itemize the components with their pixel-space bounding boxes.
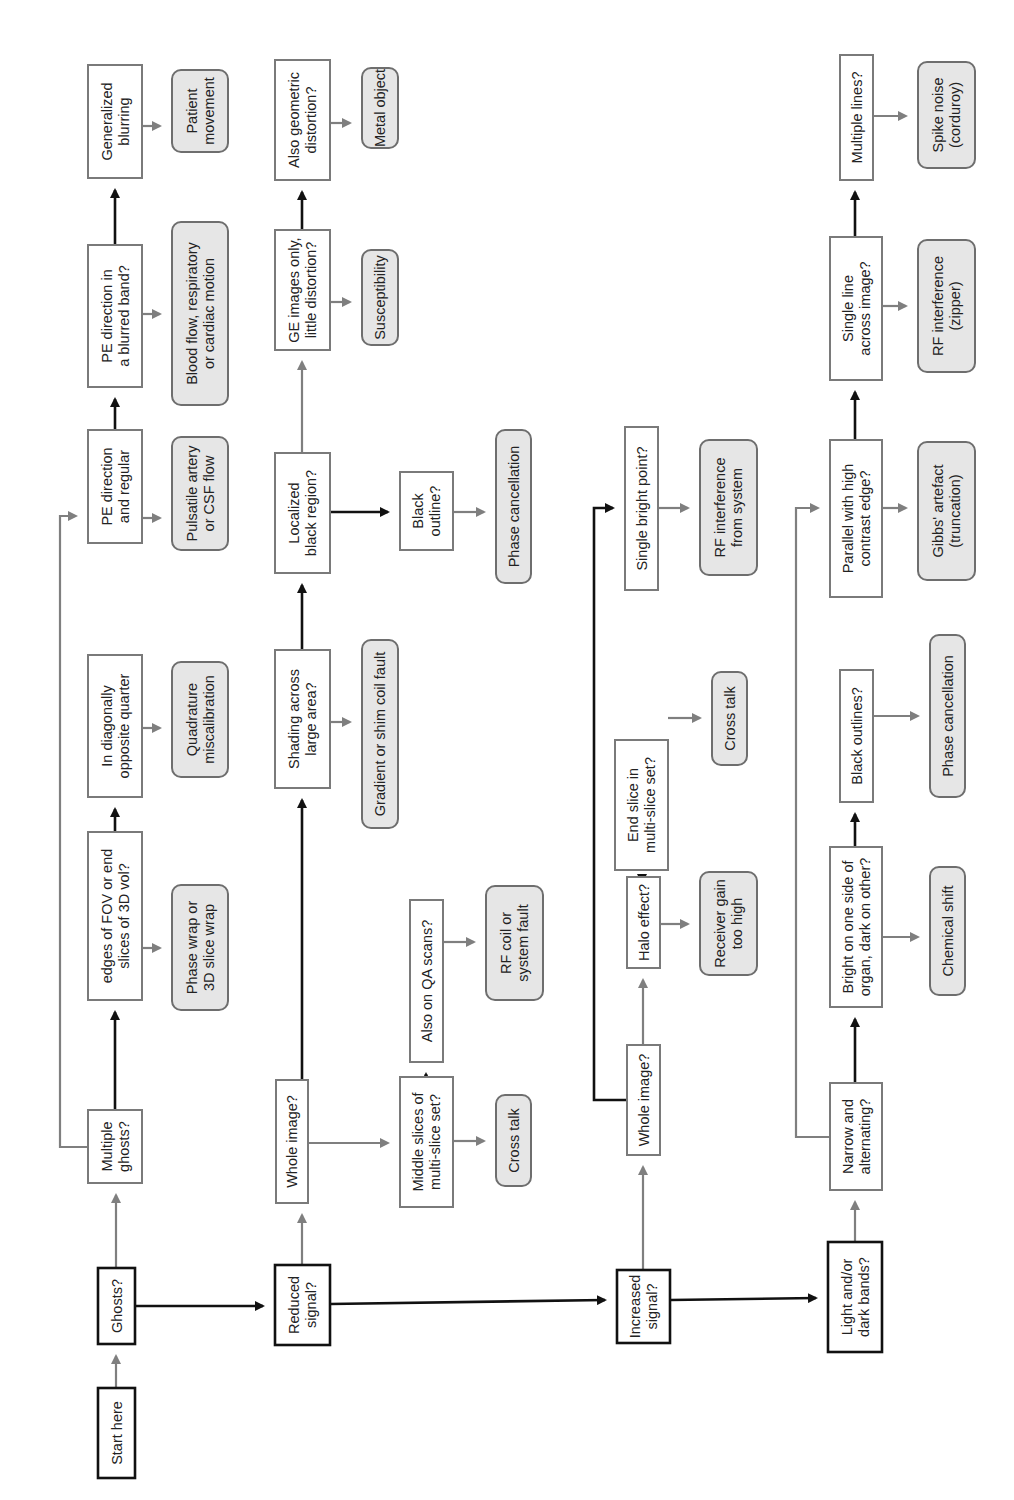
node-label: opposite quarter	[116, 673, 132, 778]
result-susceptibility: Susceptibility	[362, 250, 398, 345]
node-label: Phase cancellation	[506, 446, 522, 568]
node-label: black region?	[303, 470, 319, 556]
question-light-dark: Light and/ordark bands?	[828, 1242, 882, 1352]
question-shading: Shading acrosslarge area?	[275, 650, 330, 788]
node-label: Multiple lines?	[849, 72, 865, 164]
node-label: system fault	[515, 904, 531, 981]
result-blood-flow: Blood flow, respiratoryor cardiac motion	[172, 222, 228, 405]
node-label: PE direction in	[99, 269, 115, 363]
question-gen-blurring: Generalizedblurring	[88, 65, 142, 178]
node-label: Spike noise	[930, 78, 946, 153]
node-label: blurring	[116, 97, 132, 145]
node-label: Gibbs' artefact	[930, 464, 946, 557]
question-black-outlines: Black outlines?	[840, 670, 873, 802]
node-label: Cross talk	[722, 686, 738, 751]
result-rf-zipper: RF interference(zipper)	[918, 240, 975, 372]
node-label: Whole image?	[284, 1095, 300, 1188]
question-diag-quarter: In diagonallyopposite quarter	[88, 655, 142, 797]
question-single-line: Single lineacross image?	[830, 237, 882, 380]
node-label: signal?	[644, 1284, 660, 1330]
question-middle-slices: Middle slices ofmulti-slice set?	[400, 1077, 453, 1207]
node-label: across image?	[857, 261, 873, 355]
question-bright-point: Single bright point?	[625, 427, 658, 590]
node-label: Phase wrap or	[184, 901, 200, 995]
question-bright-one-side: Bright on one side oforgan, dark on othe…	[830, 847, 882, 1007]
question-localized-black: Localizedblack region?	[275, 453, 330, 573]
node-label: edges of FOV or end	[99, 849, 115, 984]
node-label: 3D slice wrap	[201, 904, 217, 991]
node-label: too high	[729, 898, 745, 950]
node-label: dark bands?	[856, 1257, 872, 1337]
question-multiple-lines: Multiple lines?	[840, 55, 873, 180]
result-patient-movement: Patientmovement	[172, 70, 228, 152]
node-label: (zipper)	[947, 281, 963, 330]
result-gradient-shim: Gradient or shim coil fault	[362, 640, 398, 828]
node-label: Black outlines?	[849, 687, 865, 785]
node-label: Light and/or	[839, 1259, 855, 1336]
node-label: movement	[201, 77, 217, 145]
result-receiver-gain: Receiver gaintoo high	[700, 872, 757, 975]
result-rf-system: RF interferencefrom system	[700, 440, 757, 575]
node-label: Blood flow, respiratory	[184, 241, 200, 384]
node-label: outline?	[427, 486, 443, 537]
node-label: (truncation)	[947, 474, 963, 547]
question-reduced-signal: Reducedsignal?	[275, 1265, 330, 1345]
node-label: Single line	[840, 275, 856, 342]
node-label: Metal object	[372, 69, 388, 147]
node-label: Cross talk	[506, 1108, 522, 1173]
question-halo: Halo effect?	[627, 877, 660, 968]
node-label: a blurred band?	[116, 265, 132, 367]
node-label: Reduced	[286, 1276, 302, 1334]
node-label: Ghosts?	[109, 1279, 125, 1333]
question-qa-scans: Also on QA scans?	[410, 900, 443, 1062]
question-increased-signal: Increasedsignal?	[617, 1270, 670, 1343]
question-geometric: Also geometricdistortion?	[275, 60, 330, 180]
question-ghosts: Ghosts?	[98, 1268, 135, 1344]
node-label: Also geometric	[286, 72, 302, 168]
node-label: RF interference	[712, 458, 728, 558]
result-gibbs: Gibbs' artefact(truncation)	[918, 442, 975, 580]
node-label: Narrow and	[840, 1099, 856, 1174]
node-label: RF coil or	[498, 912, 514, 974]
question-whole-image-i: Whole image?	[627, 1045, 660, 1155]
node-label: miscalibration	[201, 675, 217, 764]
node-label: Phase cancellation	[940, 655, 956, 777]
node-label: Black	[410, 493, 426, 529]
node-label: PE direction	[99, 447, 115, 525]
node-label: Increased	[627, 1275, 643, 1339]
result-pulsatile: Pulsatile arteryor CSF flow	[172, 437, 228, 550]
node-label: distortion?	[303, 87, 319, 154]
question-multiple-ghosts: Multipleghosts?	[88, 1110, 142, 1183]
node-label: (corduroy)	[947, 82, 963, 148]
node-label: RF interference	[930, 256, 946, 356]
result-phase-wrap: Phase wrap or3D slice wrap	[172, 885, 228, 1010]
node-label: Halo effect?	[636, 884, 652, 961]
node-label: Gradient or shim coil fault	[372, 652, 388, 816]
result-metal-object: Metal object	[362, 68, 398, 148]
node-label: or CSF flow	[201, 455, 217, 531]
node-label: Also on QA scans?	[419, 920, 435, 1043]
result-cross-talk-1: Cross talk	[496, 1095, 531, 1186]
node-label: organ, dark on other?	[857, 858, 873, 997]
result-chemical-shift: Chemical shift	[930, 867, 965, 995]
node-label: Whole image?	[636, 1054, 652, 1147]
question-whole-image-r: Whole image?	[276, 1080, 308, 1203]
node-label: Single bright point?	[634, 446, 650, 570]
result-quadrature: Quadraturemiscalibration	[172, 662, 228, 777]
question-start: Start here	[98, 1388, 135, 1478]
node-label: Susceptibility	[372, 254, 388, 339]
result-spike-noise: Spike noise(corduroy)	[918, 62, 975, 168]
node-label: and regular	[116, 450, 132, 524]
result-phase-cancel-1: Phase cancellation	[496, 430, 531, 583]
question-parallel-edge: Parallel with highcontrast edge?	[830, 440, 882, 597]
node-label: Pulsatile artery	[184, 445, 200, 542]
question-narrow-alt: Narrow andalternating?	[830, 1083, 882, 1190]
node-label: Middle slices of	[410, 1091, 426, 1191]
question-black-outline: Blackoutline?	[400, 472, 453, 550]
node-label: little distortion?	[303, 242, 319, 339]
node-label: In diagonally	[99, 685, 115, 767]
node-label: multi-slice set?	[427, 1094, 443, 1190]
node-label: alternating?	[857, 1099, 873, 1175]
node-label: Quadrature	[184, 683, 200, 756]
node-label: Parallel with high	[840, 464, 856, 574]
